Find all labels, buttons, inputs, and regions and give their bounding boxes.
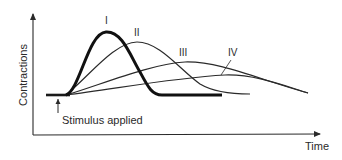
stimulus-label: Stimulus applied xyxy=(62,114,143,126)
curve-label-i: I xyxy=(105,15,108,26)
curve-label-iv: IV xyxy=(228,47,238,58)
curve-ii xyxy=(66,42,250,95)
curve-i xyxy=(66,32,222,95)
curve-iv xyxy=(66,75,308,95)
contraction-diagram: Contractions Time I II III IV Stimulus a… xyxy=(0,0,342,160)
curve-label-iii: III xyxy=(179,47,187,58)
curve-label-ii: II xyxy=(134,27,140,38)
curve-iv-leader xyxy=(221,60,231,75)
x-axis xyxy=(33,134,320,135)
y-axis-label: Contractions xyxy=(17,44,29,106)
x-axis-label: Time xyxy=(305,140,329,152)
